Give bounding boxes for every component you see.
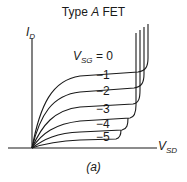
x-axis-label: VSD bbox=[158, 140, 177, 154]
curve-label-vsg-1: −1 bbox=[96, 69, 110, 81]
curve-label-vsg-5: −5 bbox=[96, 131, 110, 143]
curve-vsg-0 bbox=[32, 24, 148, 148]
curve-label-vsg-2: −2 bbox=[96, 85, 110, 97]
y-axis-label: ID bbox=[26, 26, 35, 40]
curve-label-vsg-0: VSG = 0 bbox=[73, 50, 113, 64]
curve-vsg-1 bbox=[32, 27, 144, 148]
figure-caption: (a) bbox=[0, 160, 187, 174]
curve-label-vsg-4: −4 bbox=[96, 118, 110, 130]
curve-label-vsg-3: −3 bbox=[96, 103, 110, 115]
